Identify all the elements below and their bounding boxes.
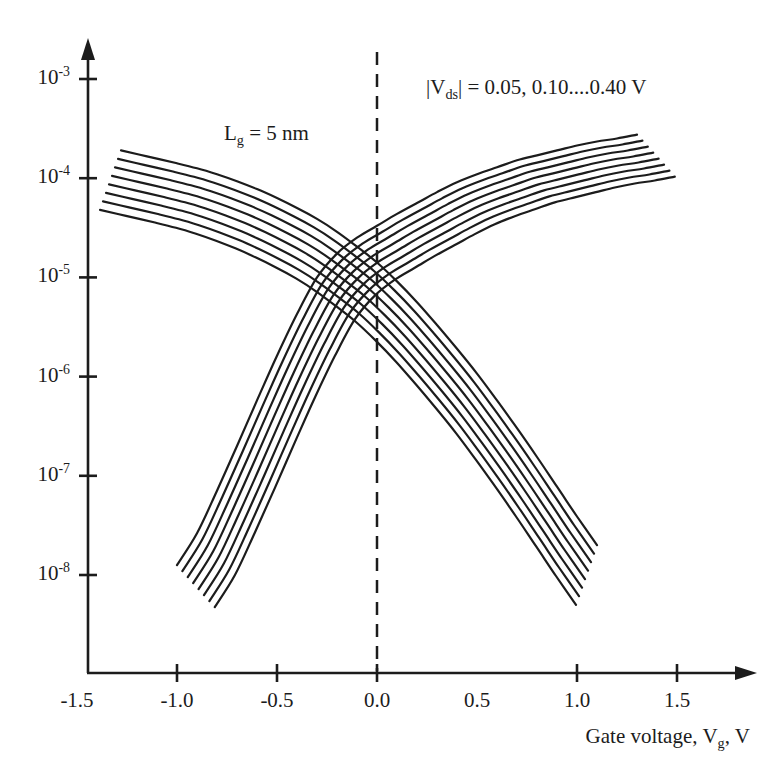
x-tick-label: -0.5 <box>242 689 312 712</box>
x-tick-label: -1.0 <box>142 689 212 712</box>
x-tick-label: 0.5 <box>442 689 512 712</box>
x-tick-label: -1.5 <box>42 689 112 712</box>
y-tick-label: 10-4 <box>12 165 70 188</box>
vds-range-label: |Vds| = 0.05, 0.10....0.40 V <box>426 75 646 100</box>
decreasing-branch-curve-3 <box>112 176 588 571</box>
x-tick-label: 1.5 <box>642 689 712 712</box>
y-tick-label: 10-6 <box>12 364 70 387</box>
gate-length-label: Lg = 5 nm <box>224 121 309 146</box>
decreasing-branch-curve-5 <box>106 193 582 588</box>
x-tick-label: 0.0 <box>342 689 412 712</box>
decreasing-branch-curve-0 <box>121 150 597 545</box>
y-axis-arrowhead <box>81 38 95 60</box>
x-axis-title: Gate voltage, Vg, V <box>450 724 750 749</box>
y-tick-label: 10-3 <box>12 66 70 89</box>
y-tick-label: 10-7 <box>12 463 70 486</box>
figure-canvas: Lg = 5 nm |Vds| = 0.05, 0.10....0.40 V G… <box>0 0 783 779</box>
decreasing-branch-curve-7 <box>100 210 576 605</box>
y-tick-label: 10-5 <box>12 264 70 287</box>
y-tick-label: 10-8 <box>12 562 70 585</box>
x-tick-label: 1.0 <box>542 689 612 712</box>
transfer-characteristics-plot <box>0 0 783 779</box>
decreasing-branch-curve-2 <box>115 167 591 562</box>
x-axis-arrowhead <box>735 666 757 680</box>
decreasing-branch-curve-1 <box>118 159 594 554</box>
